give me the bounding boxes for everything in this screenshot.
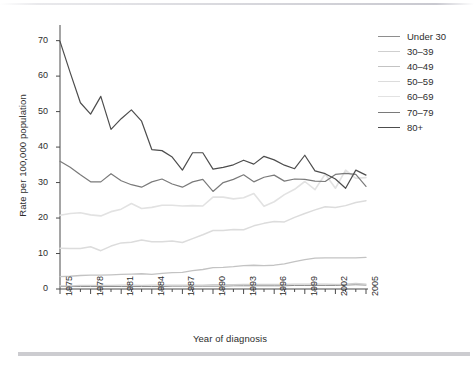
legend-swatch-icon [378,127,400,128]
legend-label: 60–69 [407,91,433,102]
y-tick-label: 30 [26,177,48,187]
x-tick-label: 1981 [125,276,135,296]
x-axis-title: Year of diagnosis [150,333,310,344]
x-tick-label: 1987 [186,276,196,296]
legend-item-80[interactable]: 80+ [378,120,423,134]
x-tick-label: 1978 [95,276,105,296]
x-tick-label: 1993 [248,276,258,296]
legend-label: 30–39 [407,46,433,57]
y-tick-label: 40 [26,141,48,151]
legend-label: 70–79 [407,107,433,118]
legend-item-40-49[interactable]: 40–49 [378,59,433,73]
y-tick-label: 10 [26,248,48,258]
figure-container: Rate per 100,000 population Year of diag… [0,0,474,365]
legend-swatch-icon [378,96,400,97]
legend-swatch-icon [378,36,400,37]
legend-swatch-icon [378,66,400,67]
legend-swatch-icon [378,112,400,113]
y-tick-label: 60 [26,70,48,80]
legend-label: 80+ [407,122,423,133]
bottom-divider-rule [18,352,470,356]
legend-swatch-icon [378,81,400,82]
legend-item-30-39[interactable]: 30–39 [378,44,433,58]
y-tick-label: 20 [26,212,48,222]
legend-item-70-79[interactable]: 70–79 [378,105,433,119]
x-tick-label: 1984 [156,276,166,296]
x-tick-label: 2005 [370,276,380,296]
x-tick-label: 2002 [339,276,349,296]
legend-label: 40–49 [407,61,433,72]
legend-item-under-30[interactable]: Under 30 [378,29,446,43]
x-tick-label: 1975 [64,276,74,296]
x-tick-label: 1990 [217,276,227,296]
legend-item-60-69[interactable]: 60–69 [378,90,433,104]
y-tick-label: 70 [26,35,48,45]
x-tick-label: 1999 [309,276,319,296]
series-line-70-79 [60,161,366,191]
y-tick-label: 0 [26,283,48,293]
y-tick-label: 50 [26,106,48,116]
series-line-40-49 [60,257,366,276]
series-line-50-59 [60,201,366,251]
legend-item-50-59[interactable]: 50–59 [378,75,433,89]
legend-label: Under 30 [407,31,446,42]
series-line-80 [60,41,366,188]
legend-swatch-icon [378,51,400,52]
x-tick-label: 1996 [278,276,288,296]
legend-label: 50–59 [407,76,433,87]
